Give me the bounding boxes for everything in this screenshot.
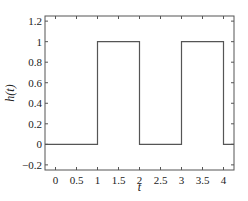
y-tick-label: 0.2 [28, 118, 42, 130]
y-tick-label: 0.6 [28, 77, 42, 89]
chart: 00.511.522.533.54 −0.200.20.40.60.811.2 … [0, 0, 248, 201]
x-tick-label: 0.5 [70, 174, 84, 186]
y-tick-label: 1 [37, 36, 43, 48]
x-tick-label: 3.5 [196, 174, 210, 186]
series-line [45, 42, 234, 145]
x-tick-label: 3 [179, 174, 185, 186]
y-tick-label: 0.4 [28, 97, 42, 109]
x-tick-label: 4 [221, 174, 227, 186]
y-tick-label: −0.2 [22, 159, 42, 171]
y-tick-label: 1.2 [28, 15, 42, 27]
y-tick-label: 0.8 [28, 56, 42, 68]
x-tick-label: 2.5 [154, 174, 168, 186]
plot-series [45, 42, 234, 145]
x-tick-label: 0 [53, 174, 59, 186]
y-axis-label: h(t) [3, 84, 17, 101]
y-tick-labels: −0.200.20.40.60.811.2 [22, 15, 42, 171]
x-tick-label: 1 [95, 174, 101, 186]
x-tick-label: 1.5 [112, 174, 126, 186]
y-tick-label: 0 [37, 138, 43, 150]
